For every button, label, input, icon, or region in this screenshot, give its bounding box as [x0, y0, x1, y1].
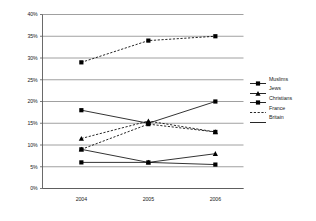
legend-item: Muslims [249, 74, 315, 84]
legend-item: France [249, 103, 315, 113]
data-point-marker-square [146, 39, 150, 43]
data-point-marker-square [79, 108, 83, 112]
data-point-marker-square [79, 60, 83, 64]
data-point-marker-square [79, 160, 83, 164]
legend-item: Christians [249, 93, 315, 103]
x-axis-label: 2005 [133, 196, 163, 202]
series-france-jews [79, 118, 218, 140]
legend-marker-jews-icon [249, 84, 267, 93]
legend-item: Jews [249, 84, 315, 94]
chart-legend: MuslimsJewsChristiansFranceBritain [249, 74, 315, 122]
series-france-christians [79, 122, 217, 151]
legend-marker-muslims-icon [249, 74, 267, 83]
data-point-marker-square [213, 130, 217, 134]
data-point-marker-square [213, 99, 217, 103]
y-axis-label: 15% [14, 120, 38, 126]
series-line [81, 124, 215, 149]
legend-item-label: Britain [269, 114, 284, 120]
x-axis-label: 2004 [66, 196, 96, 202]
y-axis-label: 10% [14, 142, 38, 148]
y-axis-label: 20% [14, 98, 38, 104]
y-axis-label: 30% [14, 55, 38, 61]
data-point-marker-square [146, 122, 150, 126]
y-axis-label: 0% [14, 185, 38, 191]
x-axis-label: 2006 [200, 196, 230, 202]
data-point-marker-square [146, 160, 150, 164]
legend-item-label: Christians [269, 95, 292, 101]
data-point-marker-square [213, 34, 217, 38]
data-series [79, 34, 218, 167]
legend-item-label: France [269, 105, 285, 111]
y-axis-label: 5% [14, 164, 38, 170]
legend-marker-britain-icon [249, 113, 267, 122]
y-axis-label: 35% [14, 33, 38, 39]
chart-container: 40%35%30%25%20%15%10%5%0% 200420052006 M… [0, 0, 316, 221]
series-france-muslims [79, 34, 217, 64]
y-axis-label: 25% [14, 77, 38, 83]
data-point-marker-square [213, 162, 217, 166]
legend-marker-france-icon [249, 103, 267, 112]
legend-marker-christians-icon [249, 93, 267, 102]
series-britain-christians [79, 160, 217, 166]
y-axis-label: 40% [14, 11, 38, 17]
legend-item-label: Muslims [269, 76, 288, 82]
data-point-marker-triangle [213, 151, 218, 156]
legend-item: Britain [249, 112, 315, 122]
legend-item-label: Jews [269, 85, 281, 91]
